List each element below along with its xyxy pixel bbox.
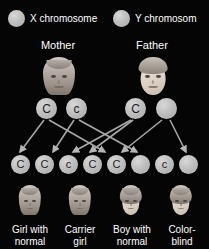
- offspring-label-line1: Color-: [155, 224, 209, 236]
- y-chromosome-legend-label: Y chromosom: [135, 13, 197, 24]
- offspring-label-colorblind: Color- blind: [155, 224, 209, 248]
- father-label: Father: [117, 39, 187, 51]
- offspring-allele-5: C: [107, 155, 126, 174]
- mother-label: Mother: [23, 39, 93, 51]
- x-chromosome-legend-icon: [8, 10, 25, 27]
- offspring-allele-4: C: [83, 155, 102, 174]
- mother-portrait: [39, 55, 79, 99]
- offspring-label-girl-normal: Girl with normal: [0, 224, 60, 248]
- carrier-girl-portrait: [66, 184, 94, 218]
- offspring-label-line2: blind: [155, 236, 209, 248]
- boy-normal-portrait: [117, 184, 145, 218]
- offspring-label-line1: Boy with: [102, 224, 162, 236]
- offspring-allele-3: c: [59, 155, 78, 174]
- offspring-allele-2: C: [35, 155, 54, 174]
- mother-gamete-1: C: [36, 98, 57, 119]
- offspring-label-line2: normal: [0, 236, 60, 248]
- offspring-label-line1: Carrier: [53, 224, 107, 236]
- mother-gamete-2: c: [66, 98, 87, 119]
- offspring-allele-1: C: [11, 155, 30, 174]
- inheritance-diagram: X chromosome Y chromosom Mother Father: [0, 0, 209, 249]
- offspring-label-line1: Girl with: [0, 224, 60, 236]
- offspring-allele-6: [131, 155, 150, 174]
- offspring-label-line2: girl: [53, 236, 107, 248]
- father-gamete-1: C: [125, 98, 146, 119]
- offspring-allele-8: [179, 155, 198, 174]
- x-chromosome-legend-label: X chromosome: [30, 13, 97, 24]
- father-gamete-2: [156, 98, 177, 119]
- offspring-label-line2: normal: [102, 236, 162, 248]
- offspring-allele-7: c: [155, 155, 174, 174]
- girl-normal-portrait: [16, 184, 44, 218]
- offspring-label-boy-normal: Boy with normal: [102, 224, 162, 248]
- offspring-label-carrier-girl: Carrier girl: [53, 224, 107, 248]
- colorblind-boy-portrait: [167, 184, 195, 218]
- y-chromosome-legend-icon: [113, 10, 130, 27]
- father-portrait: [133, 55, 173, 99]
